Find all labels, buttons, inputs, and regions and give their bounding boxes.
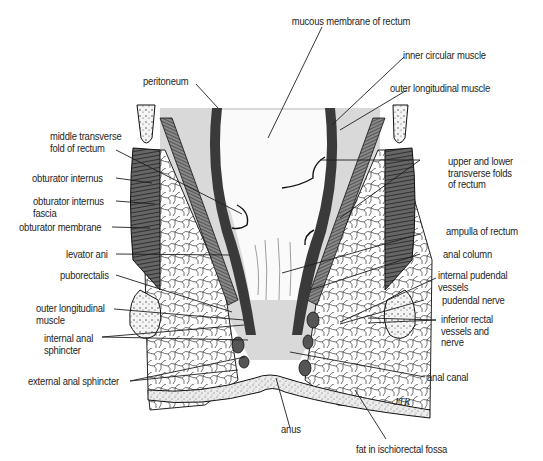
- label-upper-lower-transverse-folds: upper and lower transverse folds of rect…: [448, 156, 513, 191]
- label-obturator-membrane: obturator membrane: [19, 222, 101, 234]
- label-internal-anal-sphincter: internal anal sphincter: [44, 333, 93, 356]
- label-fat-ischiorectal-fossa: fat in ischiorectal fossa: [356, 444, 447, 456]
- label-pudendal-nerve: pudendal nerve: [442, 295, 505, 307]
- label-ampulla-of-rectum: ampulla of rectum: [446, 226, 518, 238]
- label-outer-longitudinal-muscle-top: outer longitudinal muscle: [390, 83, 490, 95]
- artist-signature: JTR: [394, 396, 410, 407]
- label-anal-canal: anal canal: [427, 372, 468, 384]
- label-inner-circular-muscle: inner circular muscle: [403, 50, 486, 62]
- label-obturator-internus: obturator internus: [32, 173, 103, 185]
- label-puborectalis: puborectalis: [60, 270, 109, 282]
- label-mucous-membrane: mucous membrane of rectum: [275, 16, 428, 28]
- label-obturator-internus-fascia: obturator internus fascia: [33, 196, 104, 219]
- label-anus: anus: [281, 424, 301, 436]
- label-external-anal-sphincter: external anal sphincter: [28, 376, 119, 388]
- label-anal-column: anal column: [443, 249, 492, 261]
- label-peritoneum: peritoneum: [143, 76, 188, 88]
- label-outer-longitudinal-muscle-bottom: outer longitudinal muscle: [36, 303, 105, 326]
- label-inferior-rectal-vessels-nerve: inferior rectal vessels and nerve: [441, 314, 493, 349]
- label-internal-pudendal-vessels: internal pudendal vessels: [438, 270, 507, 293]
- label-levator-ani: levator ani: [66, 249, 108, 261]
- label-middle-transverse-fold: middle transverse fold of rectum: [50, 131, 122, 154]
